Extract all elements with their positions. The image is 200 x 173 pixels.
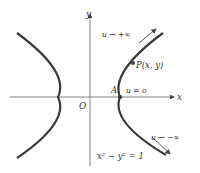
equation-label: x² − y² = 1 [97,151,144,161]
x-axis-label: x [177,92,182,102]
origin-label: O [79,101,87,111]
annotation-u-zero: u = o [126,86,147,95]
y-axis-label: y [85,9,92,19]
diagram-canvas: y x O P(x, y) A u → +∞ u = o u → −∞ x² −… [0,0,200,173]
point-a-label: A [110,85,117,95]
point-p [131,61,135,65]
point-a [118,95,122,99]
left-branch [17,33,60,158]
annotation-u-minus-inf: u → −∞ [151,133,179,142]
point-p-label: P(x, y) [135,60,163,70]
hyperbola-diagram: y x O P(x, y) A u → +∞ u = o u → −∞ x² −… [0,0,200,173]
annotation-u-plus-inf: u → +∞ [102,30,130,39]
